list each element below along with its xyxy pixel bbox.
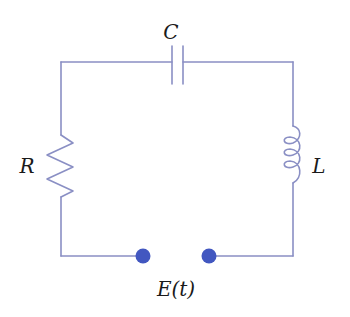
inductor-coil xyxy=(284,126,300,183)
resistor-zigzag xyxy=(47,135,73,197)
resistor-label: R xyxy=(18,154,34,178)
terminal-right xyxy=(202,249,217,264)
source-label: E(t) xyxy=(156,277,195,301)
inductor-label: L xyxy=(311,154,325,178)
capacitor-label: C xyxy=(163,20,178,44)
rlc-circuit-diagram: C R L E(t) xyxy=(0,0,350,317)
terminal-left xyxy=(136,249,151,264)
